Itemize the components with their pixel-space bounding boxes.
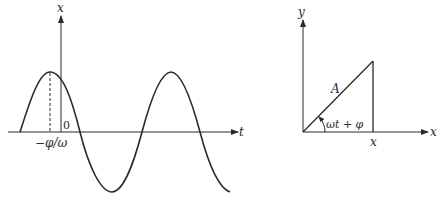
angle-arc: [319, 117, 325, 132]
phase-label: −φ/ω: [35, 136, 68, 150]
figure: x t 0 −φ/ω y x A ωt + φ x: [0, 0, 437, 199]
amplitude-label: A: [330, 82, 340, 96]
x-axis-label-right: x: [430, 125, 437, 139]
t-axis-label: t: [239, 125, 244, 139]
angle-label: ωt + φ: [326, 118, 364, 131]
left-panel: x t 0 −φ/ω: [8, 1, 244, 192]
y-axis-label: y: [297, 5, 305, 19]
origin-label: 0: [63, 119, 70, 132]
x-axis-label: x: [57, 1, 64, 15]
right-panel: y x A ωt + φ x: [297, 5, 437, 149]
projection-label: x: [370, 135, 377, 149]
